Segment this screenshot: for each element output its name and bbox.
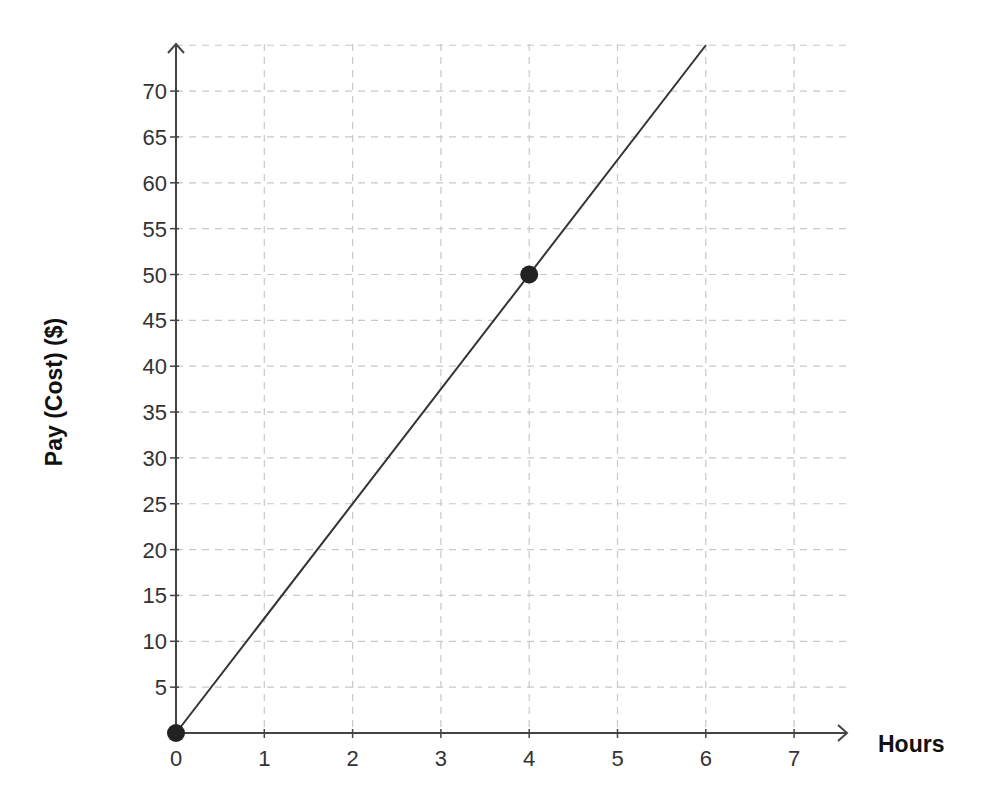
x-tick-label: 3 bbox=[435, 746, 447, 771]
data-point bbox=[520, 266, 538, 284]
x-tick-label: 7 bbox=[788, 746, 800, 771]
y-tick-label: 10 bbox=[143, 629, 167, 654]
x-tick-label: 4 bbox=[523, 746, 535, 771]
x-tick-label: 0 bbox=[170, 746, 182, 771]
y-tick-label: 40 bbox=[143, 354, 167, 379]
x-tick-label: 1 bbox=[258, 746, 270, 771]
x-tick-label: 6 bbox=[700, 746, 712, 771]
x-axis-ticks: 01234567 bbox=[170, 729, 800, 771]
x-tick-label: 5 bbox=[611, 746, 623, 771]
x-axis-title: Hours bbox=[878, 731, 944, 757]
y-tick-label: 5 bbox=[155, 675, 167, 700]
y-tick-label: 20 bbox=[143, 538, 167, 563]
y-tick-label: 50 bbox=[143, 263, 167, 288]
y-tick-label: 55 bbox=[143, 217, 167, 242]
axes bbox=[168, 44, 847, 741]
y-tick-label: 15 bbox=[143, 583, 167, 608]
y-tick-label: 65 bbox=[143, 125, 167, 150]
y-tick-label: 70 bbox=[143, 79, 167, 104]
y-tick-label: 30 bbox=[143, 446, 167, 471]
data-point bbox=[167, 724, 185, 742]
y-axis-ticks: 510152025303540455055606570 bbox=[143, 79, 179, 700]
y-axis-title: Pay (Cost) ($) bbox=[41, 318, 67, 466]
y-tick-label: 25 bbox=[143, 492, 167, 517]
x-tick-label: 2 bbox=[346, 746, 358, 771]
line-chart: 01234567 510152025303540455055606570 Hou… bbox=[0, 0, 982, 804]
y-tick-label: 35 bbox=[143, 400, 167, 425]
y-tick-label: 60 bbox=[143, 171, 167, 196]
grid-lines bbox=[176, 44, 847, 733]
y-tick-label: 45 bbox=[143, 308, 167, 333]
